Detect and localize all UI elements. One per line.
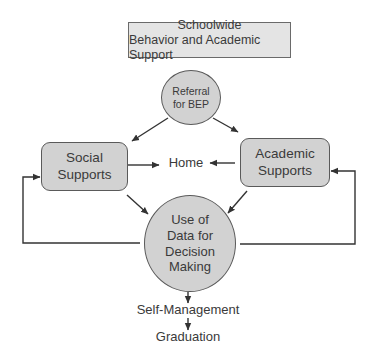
arrow-social-to-data (127, 195, 148, 214)
arrow-referral-to-academic (213, 118, 238, 132)
node-academic-line-2: Supports (258, 163, 312, 179)
node-social-line-1: Social (66, 150, 103, 166)
node-graduation: Graduation (140, 330, 236, 345)
node-data-line-2: Data for (167, 228, 213, 244)
node-social-supports: Social Supports (41, 142, 128, 191)
node-data-line-1: Use of (171, 212, 209, 228)
arrow-referral-to-social (132, 118, 168, 141)
title-line-1: Schoolwide (178, 18, 242, 33)
node-home: Home (162, 156, 210, 171)
node-data-line-3: Decision (165, 244, 215, 260)
node-self-management: Self-Management (128, 303, 248, 318)
node-referral-for-bep: Referral for BEP (161, 70, 221, 125)
node-referral-line-1: Referral (172, 85, 209, 98)
node-referral-line-2: for BEP (173, 98, 209, 111)
node-use-of-data: Use of Data for Decision Making (144, 195, 236, 292)
node-data-line-4: Making (169, 259, 211, 275)
diagram-title-box: Schoolwide Behavior and Academic Support (128, 22, 291, 58)
node-social-line-2: Supports (57, 167, 111, 183)
node-academic-line-1: Academic (255, 146, 314, 162)
title-line-2: Behavior and Academic Support (129, 33, 290, 63)
node-academic-supports: Academic Supports (240, 138, 330, 187)
arrow-academic-to-data (228, 191, 247, 213)
